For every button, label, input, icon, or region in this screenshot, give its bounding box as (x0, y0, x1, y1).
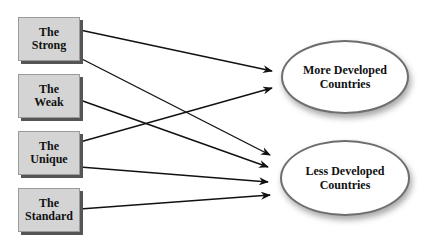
box-label-line2: Strong (32, 39, 66, 52)
arrow-standard-to-ldc (80, 195, 270, 209)
box-the-unique: The Unique (18, 131, 80, 175)
ellipse-more-developed-countries: More Developed Countries (281, 40, 409, 114)
ellipse-label-line2: Countries (320, 77, 371, 91)
box-the-standard: The Standard (18, 188, 80, 232)
box-the-strong: The Strong (18, 17, 80, 61)
arrow-unique-to-ldc (80, 167, 268, 182)
box-label-line2: Weak (34, 96, 63, 109)
box-label-line2: Standard (25, 210, 73, 223)
ellipse-label-line2: Countries (320, 178, 371, 192)
arrow-strong-to-mdc (80, 30, 272, 71)
ellipse-label-line1: Less Developed (306, 164, 385, 178)
arrow-strong-to-ldc (80, 58, 270, 155)
box-label-line2: Unique (30, 153, 67, 166)
ellipse-less-developed-countries: Less Developed Countries (280, 140, 410, 216)
box-the-weak: The Weak (18, 74, 80, 118)
ellipse-label-line1: More Developed (303, 63, 387, 77)
